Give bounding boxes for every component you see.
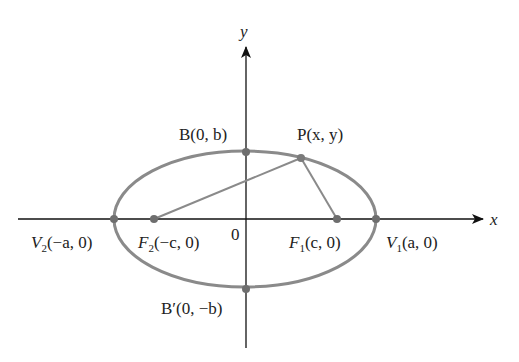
label-f1-name: F <box>288 233 300 252</box>
point-v1 <box>372 215 380 223</box>
point-f1 <box>333 215 341 223</box>
label-v2: V2(−a, 0) <box>31 233 92 254</box>
label-v1-coords: (a, 0) <box>402 233 438 252</box>
label-b-prime: B′(0, −b) <box>161 299 222 318</box>
segment-p-f2 <box>154 158 301 219</box>
y-axis-label: y <box>238 22 248 41</box>
label-f2: F2(−c, 0) <box>137 233 199 254</box>
label-p: P(x, y) <box>297 125 343 144</box>
label-v1: V1(a, 0) <box>386 233 438 254</box>
label-f2-name: F <box>137 233 149 252</box>
point-v2 <box>110 215 118 223</box>
point-p <box>297 154 305 162</box>
origin-label: 0 <box>231 225 240 244</box>
label-f1: F1(c, 0) <box>288 233 341 254</box>
point-f2 <box>150 215 158 223</box>
point-b-prime <box>242 285 250 293</box>
x-axis-label: x <box>489 210 498 229</box>
ellipse-diagram: y x 0 B(0, b) P(x, y) B′(0, −b) V2(−a, 0… <box>0 0 519 362</box>
label-b: B(0, b) <box>179 125 227 144</box>
point-b <box>242 148 250 156</box>
label-v2-coords: (−a, 0) <box>47 233 92 252</box>
label-f2-coords: (−c, 0) <box>154 233 199 252</box>
label-f1-coords: (c, 0) <box>305 233 341 252</box>
